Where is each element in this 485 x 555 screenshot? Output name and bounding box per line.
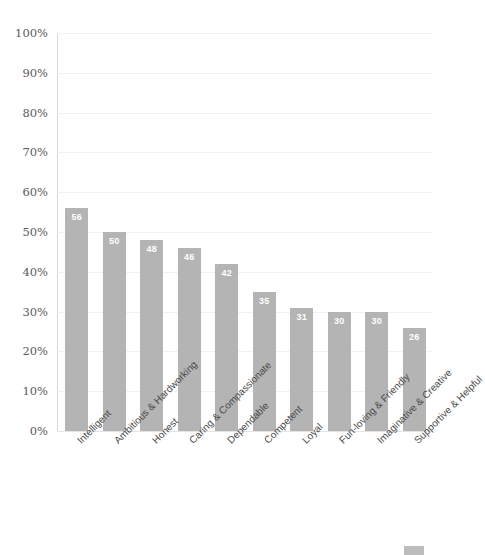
x-axis-category-label: Caring & Compassionate xyxy=(187,438,195,446)
plot-area: 56504846423531303026 xyxy=(57,33,432,431)
bar-value-label: 50 xyxy=(103,237,126,246)
legend-swatch-icon xyxy=(404,546,424,555)
x-axis-category-label: Imaginative & Creative xyxy=(375,438,383,446)
bar-value-label: 35 xyxy=(253,297,276,306)
bar-value-label: 30 xyxy=(365,317,388,326)
bar[interactable]: 50 xyxy=(103,232,126,431)
y-axis-tick-label: 0% xyxy=(0,424,48,438)
bar[interactable]: 56 xyxy=(65,208,88,431)
x-axis-category-label: Loyal xyxy=(300,438,308,446)
y-axis-tick-label: 30% xyxy=(0,305,48,319)
y-axis-tick-label: 100% xyxy=(0,26,48,40)
gridline xyxy=(57,152,432,153)
gridline xyxy=(57,192,432,193)
y-axis-tick-label: 60% xyxy=(0,185,48,199)
bar-value-label: 48 xyxy=(140,245,163,254)
gridline xyxy=(57,113,432,114)
x-axis-category-label: Intelligent xyxy=(75,438,83,446)
bar-value-label: 30 xyxy=(328,317,351,326)
x-axis-category-labels: IntelligentAmbitious & HardworkingHonest… xyxy=(57,434,432,554)
y-axis-tick-label: 10% xyxy=(0,384,48,398)
y-axis-tick-label: 50% xyxy=(0,225,48,239)
bar-value-label: 42 xyxy=(215,269,238,278)
gridline xyxy=(57,33,432,34)
y-axis-tick-labels: 0%10%20%30%40%50%60%70%80%90%100% xyxy=(0,0,52,554)
bar[interactable]: 30 xyxy=(328,312,351,431)
y-axis-tick-label: 40% xyxy=(0,265,48,279)
y-axis-tick-label: 70% xyxy=(0,145,48,159)
bar[interactable]: 46 xyxy=(178,248,201,431)
y-axis-tick-label: 90% xyxy=(0,66,48,80)
legend xyxy=(404,546,429,555)
y-axis-tick-label: 80% xyxy=(0,106,48,120)
bar-value-label: 56 xyxy=(65,213,88,222)
x-axis-category-label: Supportive & Helpful xyxy=(412,438,420,446)
y-axis-tick-label: 20% xyxy=(0,344,48,358)
x-axis-category-label: Fun-loving & Friendly xyxy=(337,438,345,446)
x-axis-category-label: Dependable xyxy=(225,438,233,446)
bar-value-label: 46 xyxy=(178,253,201,262)
x-axis-category-label: Ambitious & Hardworking xyxy=(112,438,120,446)
x-axis-category-label: Competent xyxy=(262,438,270,446)
bar-value-label: 31 xyxy=(290,313,313,322)
x-axis-category-label: Honest xyxy=(150,438,158,446)
bar-value-label: 26 xyxy=(403,333,426,342)
gridline xyxy=(57,73,432,74)
